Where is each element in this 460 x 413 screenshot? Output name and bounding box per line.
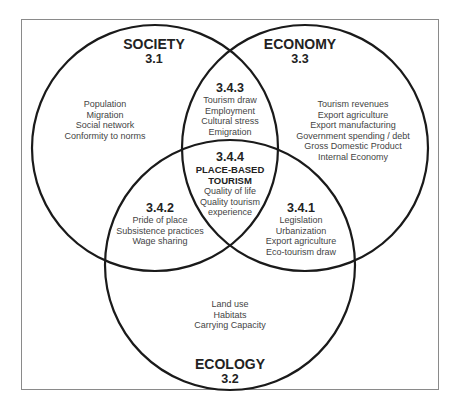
intersection-item: Eco-tourism draw [266, 247, 337, 258]
ecology-item: Carrying Capacity [194, 320, 266, 331]
center-number: 3.4.4 [196, 150, 265, 164]
intersection-item: Tourism draw [201, 95, 259, 106]
ecology-item: Habitats [194, 310, 266, 321]
intersection-item: Wage sharing [116, 236, 204, 247]
ecology-items: Land use Habitats Carrying Capacity [194, 299, 266, 331]
intersection-item: Subsistence practices [116, 226, 204, 237]
ecology-number: 3.2 [195, 372, 265, 386]
economy-title: ECONOMY [264, 37, 336, 52]
society-item: Social network [64, 120, 145, 131]
center-intersection: 3.4.4 PLACE-BASED TOURISM Quality of lif… [196, 150, 265, 218]
economy-items: Tourism revenues Export agriculture Expo… [296, 99, 410, 162]
intersection-item: Legislation [266, 215, 337, 226]
intersection-item: Cultural stress [201, 116, 259, 127]
center-item: experience [196, 207, 265, 218]
economy-number: 3.3 [264, 52, 336, 66]
intersection-number: 3.4.3 [201, 81, 259, 95]
center-item: Quality of life [196, 186, 265, 197]
society-item: Population [64, 99, 145, 110]
economy-item: Internal Economy [296, 152, 410, 163]
ecology-item: Land use [194, 299, 266, 310]
center-item: Quality tourism [196, 197, 265, 208]
economy-heading: ECONOMY 3.3 [264, 37, 336, 66]
intersection-item: Emigration [201, 127, 259, 138]
intersection-item: Export agriculture [266, 236, 337, 247]
society-items: Population Migration Social network Conf… [64, 99, 145, 141]
intersection-item: Pride of place [116, 215, 204, 226]
ecology-title: ECOLOGY [195, 357, 265, 372]
economy-item: Gross Domestic Product [296, 141, 410, 152]
society-item: Conformity to norms [64, 131, 145, 142]
society-title: SOCIETY [123, 37, 184, 52]
society-number: 3.1 [123, 52, 184, 66]
society-ecology-intersection: 3.4.2 Pride of place Subsistence practic… [116, 201, 204, 247]
economy-item: Export manufacturing [296, 120, 410, 131]
economy-ecology-intersection: 3.4.1 Legislation Urbanization Export ag… [266, 201, 337, 257]
center-title-line1: PLACE-BASED [196, 164, 265, 175]
intersection-number: 3.4.1 [266, 201, 337, 215]
intersection-number: 3.4.2 [116, 201, 204, 215]
intersection-item: Urbanization [266, 226, 337, 237]
economy-item: Export agriculture [296, 110, 410, 121]
society-economy-intersection: 3.4.3 Tourism draw Employment Cultural s… [201, 81, 259, 137]
economy-item: Government spending / debt [296, 131, 410, 142]
intersection-item: Employment [201, 106, 259, 117]
ecology-heading: ECOLOGY 3.2 [195, 357, 265, 386]
society-item: Migration [64, 110, 145, 121]
society-heading: SOCIETY 3.1 [123, 37, 184, 66]
center-title-line2: TOURISM [196, 175, 265, 186]
economy-item: Tourism revenues [296, 99, 410, 110]
